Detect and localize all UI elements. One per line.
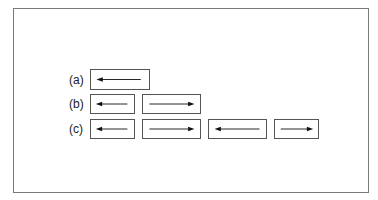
arrow-left-icon	[91, 70, 149, 89]
arrow-right-icon	[143, 95, 200, 113]
arrow-left-icon	[209, 120, 266, 138]
box-c2-right-arrow	[142, 119, 201, 139]
arrow-left-icon	[91, 120, 134, 138]
arrow-right-icon	[143, 120, 200, 138]
row-label-b: (b)	[69, 97, 84, 111]
arrow-right-icon	[275, 120, 318, 138]
box-c1-left-arrow	[90, 119, 135, 139]
row-label-a: (a)	[69, 73, 84, 87]
box-a1-left-arrow	[90, 69, 150, 90]
box-b1-left-arrow	[90, 94, 135, 114]
arrow-left-icon	[91, 95, 134, 113]
box-b2-right-arrow	[142, 94, 201, 114]
box-c4-right-arrow	[274, 119, 319, 139]
box-c3-left-arrow	[208, 119, 267, 139]
row-label-c: (c)	[69, 122, 83, 136]
